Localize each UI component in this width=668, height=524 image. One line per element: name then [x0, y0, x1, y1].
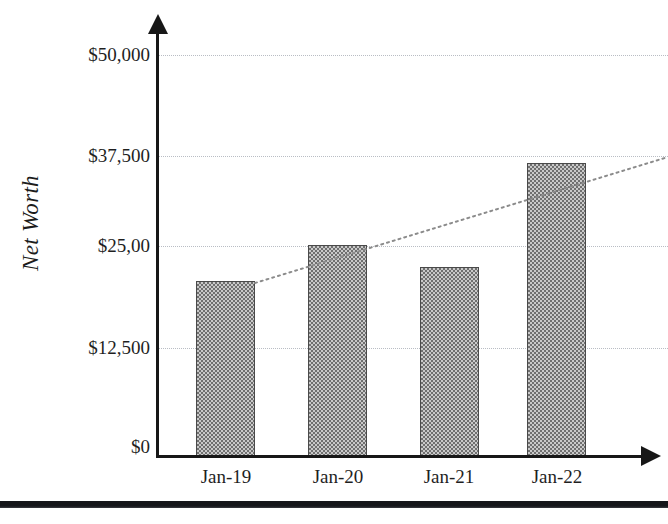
- bar-jan-19: [196, 281, 255, 456]
- x-tick-label-jan-20: Jan-20: [297, 466, 379, 488]
- bar-jan-21: [420, 267, 479, 456]
- x-axis-line: [156, 455, 656, 458]
- bar-jan-22: [527, 163, 586, 456]
- gridline-50000: [158, 55, 668, 56]
- x-axis-arrow-icon: [641, 446, 661, 466]
- y-axis-line: [156, 32, 159, 457]
- chart-figure: Net Worth $50,000 $37,500 $25,00 $12,500…: [0, 0, 668, 524]
- x-tick-label-jan-22: Jan-22: [516, 466, 598, 488]
- y-axis-arrow-icon: [148, 14, 168, 34]
- gridline-37500: [158, 156, 668, 157]
- x-tick-label-jan-19: Jan-19: [185, 466, 267, 488]
- gridline-25000: [158, 246, 668, 247]
- x-tick-label-jan-21: Jan-21: [408, 466, 490, 488]
- y-tick-label-0: $0: [54, 436, 150, 458]
- page-divider-rule: [0, 501, 668, 508]
- y-tick-labels: $50,000 $37,500 $25,00 $12,500 $0: [46, 0, 150, 500]
- bar-jan-20: [308, 245, 367, 456]
- y-tick-label-12500: $12,500: [54, 337, 150, 359]
- y-axis-title: Net Worth: [18, 153, 44, 293]
- plot-area: Net Worth $50,000 $37,500 $25,00 $12,500…: [0, 0, 668, 500]
- y-tick-label-50000: $50,000: [54, 44, 150, 66]
- y-tick-label-37500: $37,500: [54, 145, 150, 167]
- y-tick-label-25000: $25,00: [54, 235, 150, 257]
